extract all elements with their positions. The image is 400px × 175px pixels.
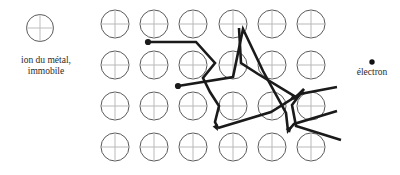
lattice-ion: [140, 133, 168, 161]
lattice-ion: [179, 92, 207, 120]
lattice-ion: [179, 133, 207, 161]
lattice-ion: [258, 51, 286, 79]
lattice-ion: [297, 51, 325, 79]
metal-conduction-diagram: ion du métal, immobile électron: [0, 0, 400, 175]
lattice-ion: [179, 51, 207, 79]
lattice-ion: [219, 133, 247, 161]
electron-trajectories: [145, 28, 341, 140]
electron-dot-icon: [369, 59, 374, 64]
lattice-ion: [101, 51, 129, 79]
lattice-ion: [258, 133, 286, 161]
lattice-ion: [101, 92, 129, 120]
ion-lattice: [101, 10, 325, 161]
lattice-ion: [101, 133, 129, 161]
lattice-ion: [140, 92, 168, 120]
lattice-ion: [297, 133, 325, 161]
lattice-ion: [179, 10, 207, 38]
electron-start-dot: [145, 39, 151, 45]
electron-legend-label: électron: [340, 67, 400, 78]
lattice-ion: [101, 10, 129, 38]
electron-path-3: [239, 28, 341, 140]
metal-ion-icon: [27, 15, 54, 42]
lattice-ion: [297, 10, 325, 38]
electron-start-dot: [175, 83, 181, 89]
lattice-ion: [140, 51, 168, 79]
diagram-canvas: [0, 0, 400, 175]
metal-ion-legend-label: ion du métal, immobile: [0, 55, 92, 77]
lattice-ion: [140, 10, 168, 38]
lattice-ion: [219, 92, 247, 120]
lattice-ion: [258, 10, 286, 38]
